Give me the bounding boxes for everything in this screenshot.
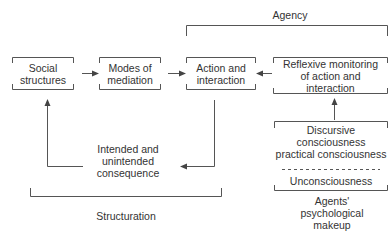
node-line: consciousness — [274, 136, 388, 148]
node-consequence: Intended and unintended consequence — [88, 143, 168, 179]
node-line: Modes of — [99, 62, 161, 74]
node-line: consequence — [88, 167, 168, 179]
node-line: structures — [12, 74, 74, 86]
node-line: mediation — [99, 74, 161, 86]
node-social-structures: Social structures — [12, 62, 74, 86]
node-line: of action and — [273, 70, 388, 82]
structuration-bracket — [31, 188, 222, 197]
agency-label-text: Agency — [272, 9, 307, 21]
node-line: interaction — [186, 74, 256, 86]
node-action-and-interaction: Action and interaction — [186, 62, 256, 86]
node-line: Intended and — [88, 143, 168, 155]
node-line: interaction — [273, 82, 388, 94]
arrow-consequence-to-social — [48, 100, 84, 167]
node-line: Social — [12, 62, 74, 74]
unconsciousness-label: Unconsciousness — [290, 175, 372, 187]
node-unconsciousness: Unconsciousness — [274, 175, 388, 187]
node-line: Agents' — [290, 195, 374, 207]
node-line: Reflexive monitoring — [273, 58, 388, 70]
node-consciousness: Discursive consciousness practical consc… — [274, 124, 388, 160]
node-line: unintended — [88, 155, 168, 167]
node-psychological-makeup: Agents' psychological makeup — [290, 195, 374, 231]
node-line: makeup — [290, 219, 374, 231]
node-line: Discursive — [274, 124, 388, 136]
structuration-label: Structuration — [86, 210, 166, 222]
agency-bracket — [187, 26, 388, 37]
arrow-action-to-consequence — [181, 100, 215, 167]
agency-label: Agency — [260, 9, 320, 21]
node-modes-of-mediation: Modes of mediation — [99, 62, 161, 86]
node-line: Action and — [186, 62, 256, 74]
node-line: psychological — [290, 207, 374, 219]
node-reflexive-monitoring: Reflexive monitoring of action and inter… — [273, 58, 388, 94]
structuration-diagram: Agency Social structures Modes of mediat… — [0, 0, 390, 236]
structuration-label-text: Structuration — [96, 210, 156, 222]
node-line: practical consciousness — [274, 148, 388, 160]
